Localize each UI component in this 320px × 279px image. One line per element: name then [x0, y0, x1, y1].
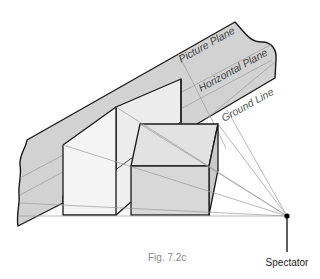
cube-front — [131, 166, 209, 215]
sight-line-3 — [218, 124, 287, 216]
perspective-diagram: Picture Plane Horizontal Plane Ground Li… — [0, 0, 320, 279]
spectator-marker — [284, 213, 289, 252]
cube-top — [131, 124, 218, 166]
label-spectator: Spectator — [266, 257, 309, 268]
gray-cube — [131, 124, 218, 215]
spectator-point — [284, 213, 289, 218]
figure-caption: Fig. 7.2c — [148, 252, 186, 263]
